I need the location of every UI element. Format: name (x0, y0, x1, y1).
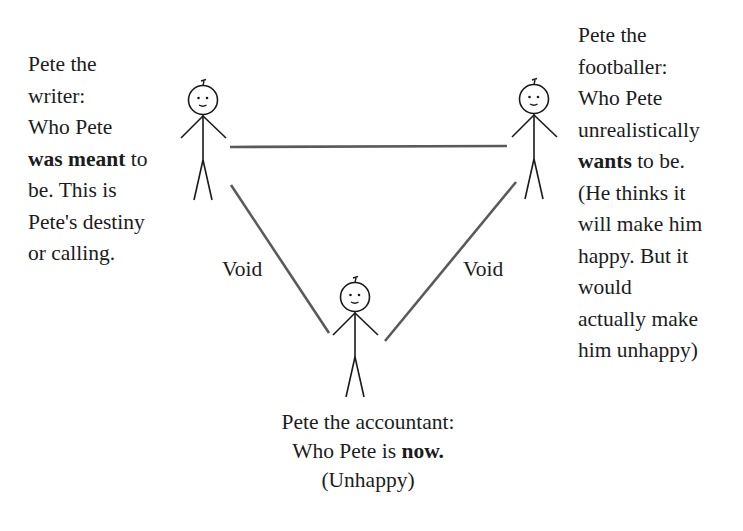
accountant-node-label: Pete the accountant:Who Pete is now.(Unh… (190, 408, 546, 495)
label-line: him unhappy) (578, 335, 702, 367)
writer-node-label: Pete thewriter:Who Petewas meant tobe. T… (28, 49, 147, 270)
label-line: happy. But it (578, 241, 702, 273)
label-line: Pete the (28, 49, 147, 81)
label-line: will make him (578, 209, 702, 241)
label-line: (Unhappy) (190, 466, 546, 495)
label-line: footballer: (578, 52, 702, 84)
label-line: unrealistically (578, 115, 702, 147)
footballer-node-label: Pete thefootballer:Who Peteunrealistical… (578, 20, 702, 367)
label-line: wants to be. (578, 146, 702, 178)
label-line: Pete the accountant: (190, 408, 546, 437)
emphasis-text: was meant (28, 147, 125, 171)
void-label-right: Void (463, 257, 503, 282)
label-line: Pete the (578, 20, 702, 52)
emphasis-text: wants (578, 149, 632, 173)
label-line: writer: (28, 81, 147, 113)
label-line: be. This is (28, 175, 147, 207)
void-label-left: Void (222, 257, 262, 282)
label-line: (He thinks it (578, 178, 702, 210)
label-line: Pete's destiny (28, 207, 147, 239)
label-line: Who Pete (28, 112, 147, 144)
label-line: Who Pete (578, 83, 702, 115)
stick-figure-icon (181, 80, 226, 201)
stick-figure-icon (333, 277, 378, 398)
emphasis-text: now. (401, 439, 443, 463)
label-line: Who Pete is now. (190, 437, 546, 466)
label-line: actually make (578, 304, 702, 336)
stick-figure-icon (512, 79, 557, 200)
edge-writer-footballer (230, 146, 507, 147)
label-line: would (578, 272, 702, 304)
label-line: was meant to (28, 144, 147, 176)
label-line: or calling. (28, 238, 147, 270)
